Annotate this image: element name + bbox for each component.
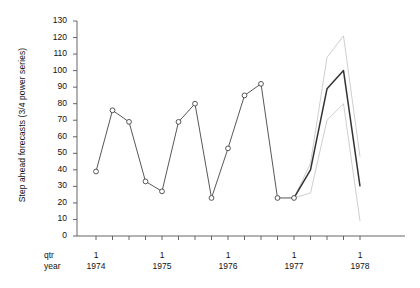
data-point-marker	[176, 119, 181, 124]
data-point-marker	[127, 119, 132, 124]
data-point-marker	[259, 81, 264, 86]
data-point-marker	[292, 196, 297, 201]
data-point-marker	[110, 108, 115, 113]
plot-area	[0, 0, 420, 288]
series-line-forecast	[294, 71, 360, 198]
data-point-marker	[226, 146, 231, 151]
axes-group	[73, 21, 405, 240]
data-point-marker	[94, 169, 99, 174]
data-point-marker	[160, 189, 165, 194]
data-point-marker	[143, 179, 148, 184]
data-point-marker	[242, 93, 247, 98]
data-point-marker	[209, 196, 214, 201]
data-point-marker	[275, 196, 280, 201]
chart-container: Step ahead forecasts (3/4 power series) …	[0, 0, 420, 288]
data-point-marker	[193, 101, 198, 106]
series-group	[94, 36, 360, 221]
